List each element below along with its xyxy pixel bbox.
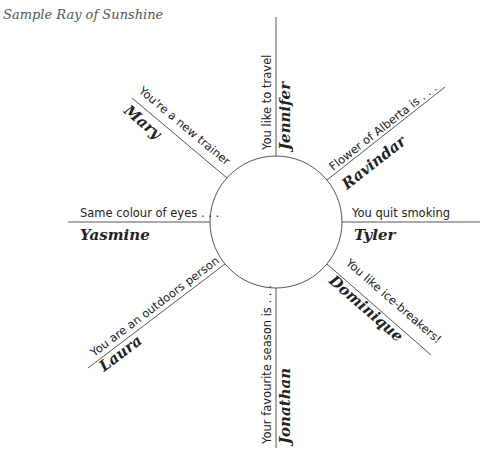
ray-of-sunshine-diagram: You like to travel Jennifer Flower of Al…	[0, 0, 493, 462]
center-circle	[210, 156, 342, 288]
ray-prompt-lower-left: You are an outdoors person	[87, 253, 222, 360]
ray-line-upper-left	[132, 98, 227, 178]
ray-name-left: Yasmine	[80, 226, 150, 244]
ray-name-top: Jennifer	[276, 81, 294, 153]
ray-prompt-left: Same colour of eyes . . .	[80, 206, 219, 220]
ray-prompt-top: You like to travel	[260, 55, 274, 151]
ray-prompt-bottom: Your favourite season is . . .	[260, 285, 274, 445]
ray-name-right: Tyler	[354, 226, 396, 244]
ray-name-bottom: Jonathan	[276, 368, 294, 447]
ray-prompt-right: You quit smoking	[351, 206, 450, 220]
